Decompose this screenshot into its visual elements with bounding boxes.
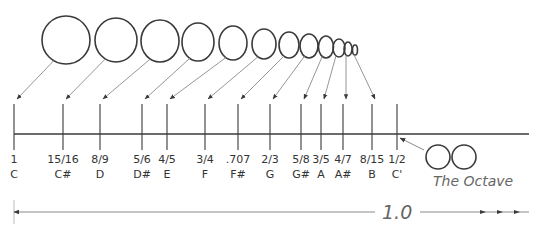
note-label-c: C	[10, 168, 18, 181]
note-ticks	[14, 104, 397, 150]
ratio-label-g-sharp: 5/8	[292, 153, 310, 166]
circle-d-sharp	[182, 23, 214, 61]
circle-b	[353, 45, 358, 55]
ratio-label-f: 3/4	[196, 153, 214, 166]
note-label-d-sharp: D#	[133, 168, 151, 181]
ratio-label-a: 3/5	[312, 153, 330, 166]
note-label-f: F	[202, 168, 208, 181]
arrow-b	[354, 54, 375, 99]
string-circles	[42, 16, 358, 64]
span-label: 1.0	[382, 201, 412, 223]
circle-d	[141, 20, 179, 62]
note-label-a: A	[317, 168, 325, 181]
note-label-c-sharp: C#	[55, 168, 72, 181]
ratio-label-c-sharp: 15/16	[47, 153, 79, 166]
ratio-label-a-sharp: 4/7	[334, 153, 352, 166]
note-label-a-sharp: A#	[335, 168, 352, 181]
arrow-d-sharp	[145, 58, 190, 99]
arrow-a	[324, 56, 336, 99]
circle-f	[252, 29, 276, 59]
note-label-g-sharp: G#	[292, 168, 310, 181]
note-label-d: D	[96, 168, 104, 181]
string-ratio-diagram: 1C15/16C#8/9D5/6D#4/5E3/4F.707F#2/3G5/8G…	[0, 0, 537, 234]
arrow-g-sharp	[304, 56, 322, 99]
arrow-e	[170, 57, 226, 99]
note-labels: 1C15/16C#8/9D5/6D#4/5E3/4F.707F#2/3G5/8G…	[10, 153, 406, 181]
circle-g-sharp	[319, 36, 334, 58]
ratio-label-f-sharp: .707	[226, 153, 251, 166]
ratio-label-e: 4/5	[158, 153, 176, 166]
note-label-f-sharp: F#	[230, 168, 246, 181]
ratio-label-c-octave: 1/2	[388, 153, 406, 166]
note-label-g: G	[266, 168, 275, 181]
octave-circle-2	[452, 145, 476, 169]
note-label-c-octave: C'	[392, 168, 403, 181]
ratio-label-g: 2/3	[261, 153, 279, 166]
circle-c	[42, 16, 90, 64]
octave-group: The Octave	[400, 138, 513, 189]
circle-a	[333, 39, 345, 57]
arrow-f	[208, 57, 258, 99]
note-label-e: E	[164, 168, 171, 181]
span-dimension: 1.0	[14, 200, 529, 224]
ratio-label-d-sharp: 5/6	[133, 153, 151, 166]
arrow-d	[103, 59, 151, 99]
octave-circles	[426, 145, 476, 169]
ratio-label-b: 8/15	[360, 153, 385, 166]
arrow-c	[17, 60, 54, 99]
octave-pointer-arrow	[400, 138, 424, 150]
circle-c-sharp	[95, 18, 137, 62]
ratio-label-c: 1	[11, 153, 18, 166]
ratio-label-d: 8/9	[91, 153, 109, 166]
circle-e	[219, 26, 247, 60]
octave-label: The Octave	[433, 173, 513, 189]
octave-circle-1	[426, 145, 450, 169]
circle-g	[300, 34, 318, 58]
circle-f-sharp	[279, 32, 299, 58]
note-label-b: B	[368, 168, 376, 181]
span-arrowheads	[480, 210, 520, 214]
arrow-c-sharp	[66, 59, 106, 99]
